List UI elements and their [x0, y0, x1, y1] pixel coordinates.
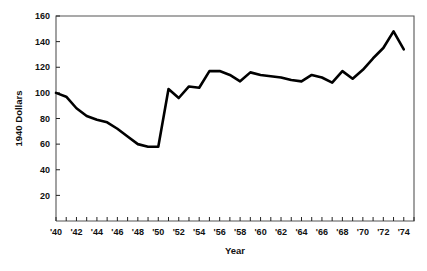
- y-tick-label: 80: [40, 114, 50, 124]
- data-series-line: [56, 31, 404, 146]
- x-tick-label: '40: [50, 227, 62, 237]
- x-tick-label: '58: [234, 227, 246, 237]
- x-tick-label: '62: [275, 227, 287, 237]
- x-tick-label: '46: [111, 227, 123, 237]
- x-tick-label: '70: [357, 227, 369, 237]
- x-tick-label: '68: [336, 227, 348, 237]
- x-tick-label: '56: [214, 227, 226, 237]
- y-tick-label: 120: [35, 62, 50, 72]
- x-tick-label: '60: [254, 227, 266, 237]
- x-tick-label: '50: [152, 227, 164, 237]
- plot-frame: [56, 16, 414, 221]
- x-tick-label: '54: [193, 227, 205, 237]
- x-tick-label: '64: [295, 227, 307, 237]
- x-tick-label: '52: [173, 227, 185, 237]
- x-tick-label: '42: [70, 227, 82, 237]
- x-tick-label: '74: [398, 227, 410, 237]
- x-tick-label: '72: [377, 227, 389, 237]
- x-axis-ticks: [56, 217, 414, 221]
- x-axis-title: Year: [225, 245, 245, 256]
- x-tick-label: '66: [316, 227, 328, 237]
- y-tick-label: 40: [40, 165, 50, 175]
- y-tick-label: 60: [40, 139, 50, 149]
- y-axis-tick-labels: 20406080100120140160: [35, 11, 50, 200]
- x-tick-label: '44: [91, 227, 103, 237]
- y-tick-label: 140: [35, 37, 50, 47]
- line-chart: 20406080100120140160 '40'42'44'46'48'50'…: [0, 0, 427, 271]
- x-tick-label: '48: [132, 227, 144, 237]
- chart-container: 20406080100120140160 '40'42'44'46'48'50'…: [0, 0, 427, 271]
- y-tick-label: 100: [35, 88, 50, 98]
- y-tick-label: 20: [40, 191, 50, 201]
- y-tick-label: 160: [35, 11, 50, 21]
- x-axis-tick-labels: '40'42'44'46'48'50'52'54'56'58'60'62'64'…: [50, 227, 410, 237]
- y-axis-title: 1940 Dollars: [13, 91, 24, 147]
- y-axis-ticks: [56, 16, 60, 195]
